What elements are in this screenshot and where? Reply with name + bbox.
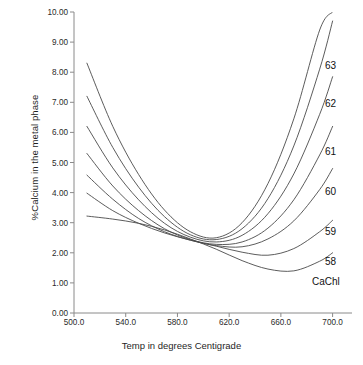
series-label-60: 60 [325, 186, 336, 197]
series-label-62: 62 [325, 98, 336, 109]
series-label-CaChl: CaChl [312, 276, 340, 287]
series-label-59: 59 [325, 226, 336, 237]
y-axis-title: %Calcium in the metal phase [29, 68, 40, 248]
series-label-58: 58 [325, 256, 336, 267]
x-axis-title: Temp in degrees Centigrade [0, 340, 363, 351]
series-label-61: 61 [325, 146, 336, 157]
series-label-63: 63 [325, 60, 336, 71]
series-labels: 636261605958CaChl [0, 0, 363, 365]
chart-figure: 0.001.002.003.004.005.006.007.008.009.00… [0, 0, 363, 365]
